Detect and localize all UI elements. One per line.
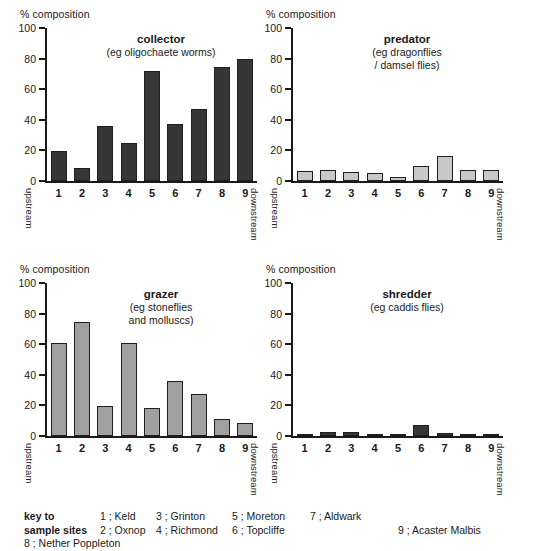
y-axis-tick-label: 60 (270, 338, 282, 350)
key-entry: 5 ; Moreton (232, 510, 310, 524)
bar (51, 343, 67, 436)
bar (214, 67, 230, 181)
x-axis-tick-label: 2 (317, 442, 339, 454)
x-axis-tick-label: 5 (387, 187, 409, 199)
bar (237, 423, 253, 436)
y-axis-tick (285, 119, 291, 121)
y-axis-tick-label: 40 (24, 114, 36, 126)
bar (237, 59, 253, 181)
x-axis-tick-label: 2 (71, 187, 93, 199)
x-axis-tick-label: 7 (434, 442, 456, 454)
y-axis-tick (285, 282, 291, 284)
bar (437, 156, 453, 181)
plot-area: 020406080100123456789upstreamdownstream (291, 28, 503, 183)
bar (297, 434, 313, 436)
x-axis-tick-label: 6 (410, 442, 432, 454)
bar (413, 166, 429, 181)
key-entry: 7 ; Aldwark (310, 510, 524, 524)
bar (483, 434, 499, 436)
upstream-label: upstream (270, 443, 281, 483)
y-axis-tick-label: 20 (24, 144, 36, 156)
y-axis-tick-label: 0 (30, 175, 36, 187)
chart-panel-predator: % composition020406080100123456789upstre… (262, 6, 512, 246)
x-axis-tick-label: 6 (164, 187, 186, 199)
x-axis-tick-label: 1 (294, 442, 316, 454)
y-axis-tick-label: 60 (270, 83, 282, 95)
bar (191, 109, 207, 181)
y-axis-tick (39, 404, 45, 406)
bar (320, 432, 336, 436)
x-axis-line (291, 436, 503, 438)
bar (437, 433, 453, 436)
y-axis-caption: % composition (20, 263, 90, 275)
bar (74, 168, 90, 181)
x-axis-tick-label: 4 (118, 187, 140, 199)
chart-panel-grazer: % composition020406080100123456789upstre… (16, 261, 266, 501)
y-axis-tick (39, 88, 45, 90)
bar (343, 432, 359, 436)
y-axis-caption: % composition (20, 8, 90, 20)
x-axis-tick-label: 2 (317, 187, 339, 199)
y-axis-tick (285, 27, 291, 29)
bar (367, 434, 383, 436)
bar-series (293, 28, 503, 181)
bar (320, 170, 336, 181)
x-axis-tick-label: 8 (211, 187, 233, 199)
key-heading-line2: sample sites (24, 524, 100, 538)
y-axis-tick-label: 80 (270, 308, 282, 320)
x-axis-tick-label: 3 (340, 442, 362, 454)
bar (167, 124, 183, 181)
x-axis-tick-label: 4 (364, 187, 386, 199)
x-axis-line (291, 181, 503, 183)
bar-series (47, 283, 257, 436)
y-axis-tick-label: 80 (270, 53, 282, 65)
y-axis-tick (39, 374, 45, 376)
bar (144, 408, 160, 436)
x-axis-tick-label: 1 (48, 442, 70, 454)
y-axis-tick (285, 180, 291, 182)
upstream-label: upstream (270, 188, 281, 228)
y-axis-tick (285, 343, 291, 345)
y-axis-tick-label: 100 (264, 22, 282, 34)
x-axis-tick-label: 8 (457, 187, 479, 199)
bar (97, 126, 113, 181)
x-axis-tick-label: 7 (188, 442, 210, 454)
bar (413, 425, 429, 436)
key-entry: 8 ; Nether Poppleton (24, 537, 100, 551)
y-axis-tick-label: 0 (276, 430, 282, 442)
y-axis-tick (39, 149, 45, 151)
bar (74, 322, 90, 436)
x-axis-tick-label: 8 (211, 442, 233, 454)
key-to-sample-sites: key to1 ; Keld3 ; Grinton5 ; Moreton7 ; … (24, 510, 524, 551)
downstream-label: downstream (495, 443, 506, 496)
key-entry: 3 ; Grinton (156, 510, 232, 524)
chart-panel-shredder: % composition020406080100123456789upstre… (262, 261, 512, 501)
x-axis-line (45, 436, 257, 438)
plot-area: 020406080100123456789upstreamdownstream (291, 283, 503, 438)
y-axis-tick-label: 100 (264, 277, 282, 289)
bar (121, 343, 137, 436)
y-axis-tick (39, 27, 45, 29)
x-axis-tick-label: 7 (434, 187, 456, 199)
x-axis-tick-label: 8 (457, 442, 479, 454)
upstream-label: upstream (24, 443, 35, 483)
bar (167, 381, 183, 436)
bar (367, 173, 383, 181)
y-axis-caption: % composition (266, 8, 336, 20)
y-axis-tick (39, 313, 45, 315)
bar-series (293, 283, 503, 436)
bar (51, 151, 67, 181)
bar (460, 434, 476, 436)
x-axis-tick-label: 3 (340, 187, 362, 199)
x-axis-tick-label: 3 (94, 187, 116, 199)
y-axis-tick (285, 313, 291, 315)
y-axis-tick (39, 119, 45, 121)
y-axis-tick-label: 80 (24, 308, 36, 320)
x-axis-tick-label: 1 (48, 187, 70, 199)
y-axis-tick (39, 435, 45, 437)
bar (343, 172, 359, 181)
y-axis-tick-label: 20 (24, 399, 36, 411)
plot-area: 020406080100123456789upstreamdownstream (45, 283, 257, 438)
y-axis-tick (39, 58, 45, 60)
key-entry: 6 ; Topcliffe (232, 524, 310, 538)
